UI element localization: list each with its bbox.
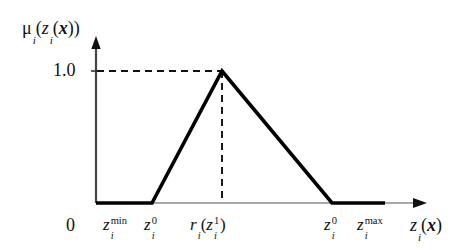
membership-function-curve <box>96 71 385 203</box>
y-axis-label-z-sub: i <box>50 35 53 46</box>
x-tick-z-zero-right-sup: 0 <box>332 216 337 227</box>
y-axis-label-mu: μ <box>22 18 32 38</box>
x-tick-r-inner-sup: 1 <box>214 216 219 227</box>
x-tick-r-inner-base: z <box>206 215 213 234</box>
x-tick-z-zero-left-base: z <box>144 215 151 234</box>
x-tick-z-max-sub: i <box>365 231 368 242</box>
y-axis-label-z: z <box>42 18 49 38</box>
x-tick-r-close-paren: ) <box>220 215 226 234</box>
y-axis-label-close-paren-1: ) <box>74 18 80 38</box>
x-tick-z-max-base: z <box>357 215 364 234</box>
y-axis-arrowhead <box>91 36 100 49</box>
x-origin-label: 0 <box>66 216 75 234</box>
axes-group <box>91 36 427 208</box>
x-tick-z-zero-right-sub: i <box>332 231 335 242</box>
y-tick-label-1.0: 1.0 <box>53 61 76 79</box>
x-tick-z-zero-left-sup: 0 <box>152 216 157 227</box>
x-axis-label-z-sub: i <box>418 232 421 243</box>
x-tick-z-max-sup: max <box>365 216 383 227</box>
x-tick-label-r-z-one: ri(zi1) <box>190 216 226 233</box>
x-tick-label-z-zero-left: zi0 <box>144 216 159 233</box>
x-axis-label-x: x <box>427 215 436 235</box>
x-tick-label-z-max: zimax <box>357 216 386 233</box>
x-axis-label: zi(x) <box>410 216 442 234</box>
x-tick-r-sub: i <box>198 231 201 242</box>
x-axis-label-z: z <box>410 215 417 235</box>
x-tick-z-min-base: z <box>103 215 110 234</box>
membership-curve-group <box>96 71 385 203</box>
x-tick-z-min-sub: i <box>111 231 114 242</box>
x-tick-z-min-sup: min <box>111 216 127 227</box>
y-axis-label-mu-sub: i <box>33 35 36 46</box>
x-tick-z-zero-right-base: z <box>324 215 331 234</box>
membership-function-figure: μi(zi(x)) 1.0 0 zimin zi0 ri(zi1) zi0 zi… <box>0 0 469 250</box>
guide-lines-group <box>97 71 222 203</box>
x-tick-r-inner-sub: i <box>214 231 217 242</box>
x-tick-label-z-min: zimin <box>103 216 130 233</box>
x-axis-label-close-paren: ) <box>436 215 442 235</box>
x-tick-label-z-zero-right: zi0 <box>324 216 339 233</box>
x-tick-r-base: r <box>190 215 197 234</box>
x-tick-z-zero-left-sub: i <box>152 231 155 242</box>
y-axis-label-x: x <box>59 18 68 38</box>
y-axis-label: μi(zi(x)) <box>22 19 80 37</box>
x-axis-arrowhead <box>413 198 427 208</box>
